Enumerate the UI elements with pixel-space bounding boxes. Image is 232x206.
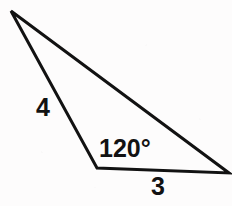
- side-length-label-3: 3: [151, 174, 165, 199]
- angle-measure-label-120: 120°: [99, 136, 151, 161]
- side-length-label-4: 4: [36, 95, 50, 120]
- triangle-shape: [0, 0, 232, 206]
- triangle-figure: 4 120° 3: [0, 0, 232, 206]
